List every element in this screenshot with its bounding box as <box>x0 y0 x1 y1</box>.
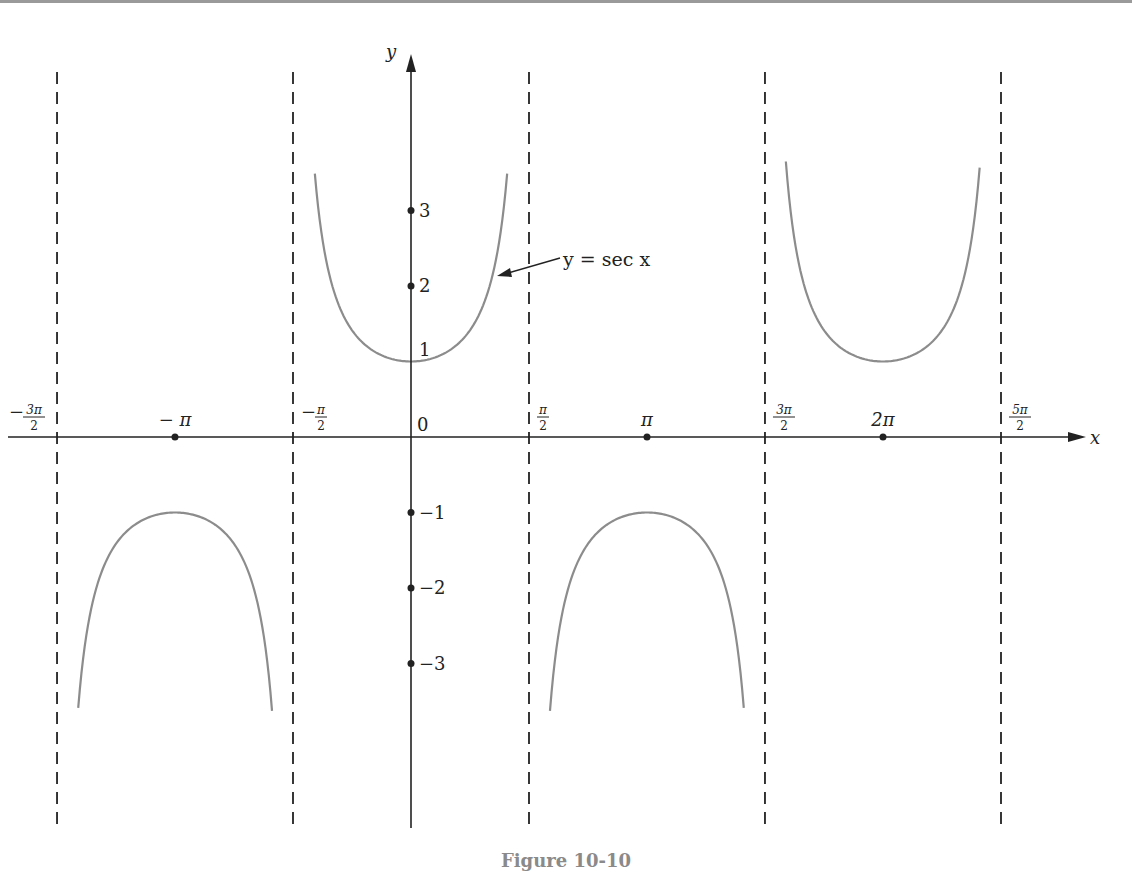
y-tick-label: −2 <box>419 577 446 598</box>
x-axis-arrow-icon <box>1068 432 1086 442</box>
x-tick-minus: − <box>9 401 24 422</box>
x-axis-name: x <box>1090 427 1100 448</box>
x-tick-denominator: 2 <box>780 419 788 433</box>
x-tick-numerator: 5π <box>1012 403 1029 417</box>
x-tick-denominator: 2 <box>539 419 547 433</box>
curve-label: y = sec x <box>562 248 650 270</box>
sec-curve-branch <box>786 162 980 362</box>
y-tick-dot <box>408 207 415 214</box>
x-tick-numerator: 3π <box>776 403 793 417</box>
y-tick-label: 1 <box>419 339 430 360</box>
x-tick-dot <box>644 434 651 441</box>
origin-label: 0 <box>417 414 428 435</box>
y-tick-dot <box>408 585 415 592</box>
y-tick-label: −3 <box>419 653 446 674</box>
sec-curve-branch <box>78 513 272 711</box>
x-tick-label: 2π <box>870 409 895 430</box>
y-tick-dot <box>408 283 415 290</box>
annotation-arrow-line <box>508 258 560 273</box>
y-tick-label: −1 <box>419 502 446 523</box>
figure-caption: Figure 10-10 <box>0 850 1132 871</box>
x-tick-numerator: 3π <box>26 403 43 417</box>
x-tick-labels: −3π2− π−π2π2π3π22π5π2 <box>9 401 1031 441</box>
x-tick-minus: − <box>301 401 316 422</box>
x-tick-denominator: 2 <box>317 419 325 433</box>
x-tick-label: π <box>640 409 654 430</box>
x-tick-label: − π <box>159 409 193 430</box>
axes: x y 0 <box>8 41 1100 828</box>
x-tick-numerator: π <box>316 403 326 417</box>
y-tick-label: 3 <box>419 200 430 221</box>
x-tick-dot <box>880 434 887 441</box>
sec-x-chart: x y 0 −3π2− π−π2π2π3π22π5π2 321−1−2−3 y … <box>0 0 1132 896</box>
x-tick-dot <box>171 434 178 441</box>
y-axis-arrow-icon <box>406 54 416 72</box>
y-axis-name: y <box>385 41 397 62</box>
annotation-arrow-icon <box>497 268 512 277</box>
y-tick-dot <box>408 509 415 516</box>
sec-curve-branch <box>550 513 744 711</box>
curve-annotation: y = sec x <box>497 248 650 277</box>
y-tick-label: 2 <box>419 275 430 296</box>
x-tick-numerator: π <box>538 403 548 417</box>
x-tick-denominator: 2 <box>30 419 38 433</box>
y-tick-dot <box>408 660 415 667</box>
x-tick-denominator: 2 <box>1016 419 1024 433</box>
asymptote-lines <box>57 72 1001 828</box>
